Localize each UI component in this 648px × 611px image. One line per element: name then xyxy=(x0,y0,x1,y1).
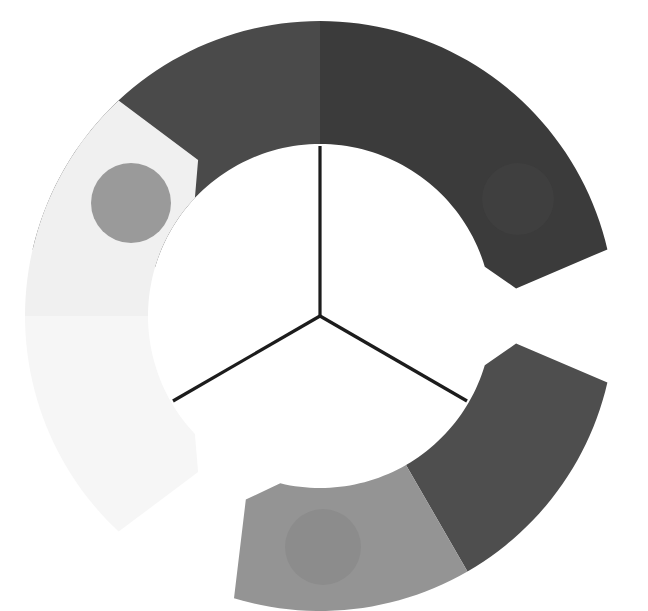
diagram-root xyxy=(0,0,648,611)
node-circle-right[interactable] xyxy=(482,163,554,235)
node-circle-left[interactable] xyxy=(91,163,171,243)
node-circle-bottom[interactable] xyxy=(285,509,361,585)
radial-ring-diagram xyxy=(0,0,648,611)
